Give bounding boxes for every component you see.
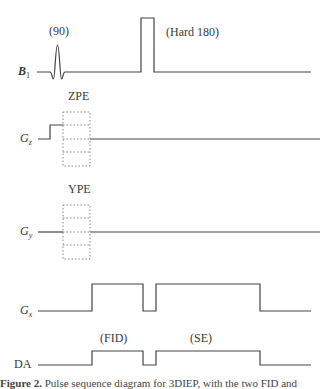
gy-label: Gy [20,224,32,240]
fid-annotation: (FID) [100,331,127,346]
ype-annotation: YPE [68,182,91,197]
b1-label-sub: 1 [26,71,30,80]
gy-label-main: G [20,224,29,238]
hard-180-annotation: (Hard 180) [166,25,219,40]
gy-label-sub: y [29,231,33,240]
gx-waveform [38,284,311,311]
ype-phase-encode-table [63,205,90,259]
gz-label-sub: z [29,138,32,147]
gz-label: Gz [20,131,32,147]
b1-label: B1 [18,64,30,80]
figure-caption: Figure 2. Pulse sequence diagram for 3DI… [0,377,326,389]
da-label: DA [14,357,31,372]
gz-waveform [38,125,320,139]
figure-number: Figure 2. [0,377,42,389]
gx-label-main: G [20,303,29,317]
b1-label-main: B [18,64,26,78]
se-annotation: (SE) [190,331,212,346]
ninety-pulse-annotation: (90) [49,24,69,39]
caption-text: Pulse sequence diagram for 3DIEP, with t… [42,377,297,389]
gx-label-sub: x [29,310,33,319]
zpe-annotation: ZPE [68,89,89,104]
gx-label: Gx [20,303,32,319]
zpe-phase-encode-table [63,112,90,166]
da-waveform [38,351,311,365]
gz-label-main: G [20,131,29,145]
